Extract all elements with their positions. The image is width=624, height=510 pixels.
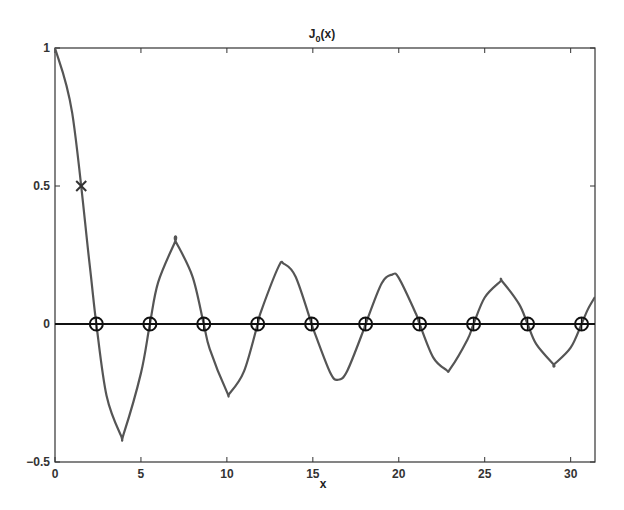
zero-marker <box>521 318 534 331</box>
x-tick-label: 15 <box>306 467 320 481</box>
zero-marker <box>359 318 372 331</box>
y-tick-label: 0 <box>43 317 50 331</box>
zero-marker <box>467 318 480 331</box>
zero-marker <box>413 318 426 331</box>
zero-marker <box>575 318 588 331</box>
zero-marker <box>143 318 156 331</box>
x-tick-label: 0 <box>52 467 59 481</box>
zero-marker <box>90 318 103 331</box>
x-tick-label: 20 <box>392 467 406 481</box>
zero-marker <box>251 318 264 331</box>
zero-marker <box>305 318 318 331</box>
y-tick-label: 1 <box>43 41 50 55</box>
zero-marker <box>197 318 210 331</box>
plot-area: 051015202530−0.500.51 <box>26 41 595 481</box>
title-main: J <box>309 27 316 41</box>
chart-title: J0(x) <box>309 27 335 44</box>
x-tick-label: 10 <box>220 467 234 481</box>
chart: 051015202530−0.500.51 J0(x) x <box>0 0 624 510</box>
x-tick-label: 25 <box>478 467 492 481</box>
y-tick-label: 0.5 <box>33 179 50 193</box>
x-tick-label: 5 <box>138 467 145 481</box>
x-tick-label: 30 <box>564 467 578 481</box>
x-axis-label: x <box>320 477 327 491</box>
axes-frame <box>55 48 595 462</box>
y-tick-label: −0.5 <box>26 455 50 469</box>
title-rest: (x) <box>321 27 336 41</box>
